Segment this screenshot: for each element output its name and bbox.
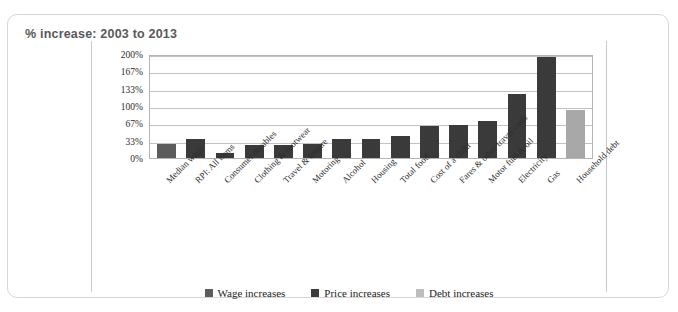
bar-slot bbox=[444, 56, 473, 158]
bar-slot bbox=[415, 56, 444, 158]
legend-swatch-icon bbox=[311, 289, 319, 297]
y-axis-tick: 33% bbox=[126, 137, 143, 147]
bar-slot bbox=[152, 56, 181, 158]
chart-legend: Wage increasesPrice increasesDebt increa… bbox=[91, 287, 607, 299]
y-axis-tick: 200% bbox=[121, 50, 143, 60]
bar-slot bbox=[532, 56, 561, 158]
bar-slot bbox=[181, 56, 210, 158]
chart-card: % increase: 2003 to 2013 200%167%133%100… bbox=[7, 14, 669, 298]
y-axis-tick: 67% bbox=[126, 119, 143, 129]
bar[interactable] bbox=[157, 144, 176, 158]
y-axis-tick: 133% bbox=[121, 85, 143, 95]
bar-slot bbox=[561, 56, 590, 158]
legend-label: Wage increases bbox=[218, 287, 286, 299]
bar-slot bbox=[356, 56, 385, 158]
bar-slot bbox=[386, 56, 415, 158]
legend-swatch-icon bbox=[205, 289, 213, 297]
legend-item[interactable]: Debt increases bbox=[416, 287, 493, 299]
y-axis-tick: 167% bbox=[121, 67, 143, 77]
bar[interactable] bbox=[566, 110, 585, 158]
ghost-header-text bbox=[6, 0, 9, 5]
bar-slot bbox=[210, 56, 239, 158]
x-axis-labels: Median wageRPI: All itemsConsumer durabl… bbox=[149, 178, 593, 268]
y-axis-tick: 0% bbox=[130, 154, 143, 164]
bar[interactable] bbox=[362, 139, 381, 158]
cut-off-header-strip bbox=[0, 0, 678, 11]
bar[interactable] bbox=[537, 57, 556, 158]
legend-label: Price increases bbox=[324, 287, 390, 299]
legend-label: Debt increases bbox=[429, 287, 493, 299]
chart-title: % increase: 2003 to 2013 bbox=[25, 27, 177, 41]
y-axis-tick: 100% bbox=[121, 102, 143, 112]
legend-item[interactable]: Wage increases bbox=[205, 287, 286, 299]
legend-item[interactable]: Price increases bbox=[311, 287, 390, 299]
y-axis: 200%167%133%100%67%33%0% bbox=[111, 55, 146, 159]
legend-swatch-icon bbox=[416, 289, 424, 297]
bar[interactable] bbox=[391, 136, 410, 158]
bar-slot bbox=[327, 56, 356, 158]
